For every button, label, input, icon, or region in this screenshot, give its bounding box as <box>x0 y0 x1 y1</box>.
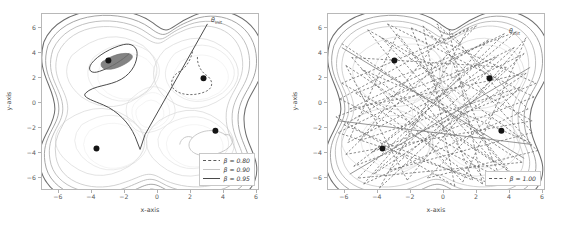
xtick-label: 2 <box>474 193 478 200</box>
plot-area-right: θinit β = 1.00 <box>327 13 545 190</box>
ytick-label: 6 <box>308 24 322 31</box>
ytick-label: −4 <box>22 149 36 156</box>
ytick-label: 4 <box>308 49 322 56</box>
ytick-mark <box>324 152 327 153</box>
contour-level-2 <box>75 44 235 170</box>
legend-swatch-solid-light <box>203 166 220 173</box>
plot-area-left: θinit β = 0.80 β = 0.90 <box>41 13 259 190</box>
y-axis-title: y-axis <box>291 92 299 111</box>
annealed-trajectories-panel: θinit β = 0.80 β = 0.90 <box>0 0 285 232</box>
legend-item: β = 0.80 <box>203 156 250 165</box>
ytick-label: 2 <box>22 74 36 81</box>
legend-swatch-solid-dark <box>203 175 220 182</box>
ytick-label: −2 <box>22 124 36 131</box>
trajectory-beta-080 <box>172 52 212 95</box>
ytick-mark <box>324 177 327 178</box>
mode-marker <box>498 128 504 134</box>
legend-label: β = 0.80 <box>224 157 250 164</box>
xtick-label: −6 <box>53 193 62 200</box>
ytick-label: −6 <box>308 174 322 181</box>
xtick-label: 4 <box>221 193 225 200</box>
ytick-mark <box>38 177 41 178</box>
mode-markers-left <box>94 58 219 152</box>
xtick-label: −4 <box>86 193 95 200</box>
xtick-label: 0 <box>155 193 159 200</box>
xtick-label: 6 <box>540 193 544 200</box>
theta-init-annotation-left: θinit <box>211 16 222 25</box>
xtick-label: −2 <box>119 193 128 200</box>
ytick-mark <box>38 127 41 128</box>
legend-label: β = 1.00 <box>510 175 536 182</box>
contour-level-1 <box>84 53 229 168</box>
ytick-mark <box>38 27 41 28</box>
x-axis-title: x-axis <box>141 206 160 214</box>
ytick-mark <box>324 77 327 78</box>
unannealed-trajectories-panel: θinit β = 1.00 −6 −4 −2 0 2 4 6 <box>286 0 571 232</box>
y-axis-title: y-axis <box>5 92 13 111</box>
legend-item: β = 0.90 <box>203 165 250 174</box>
mode-marker <box>487 75 493 81</box>
legend-swatch-dashed <box>489 175 506 182</box>
ytick-mark <box>324 27 327 28</box>
ytick-label: −6 <box>22 174 36 181</box>
xtick-label: −2 <box>405 193 414 200</box>
xtick-label: 4 <box>507 193 511 200</box>
ytick-label: 0 <box>22 99 36 106</box>
ytick-mark <box>38 77 41 78</box>
mode-marker <box>201 75 207 81</box>
legend-label: β = 0.95 <box>224 175 250 182</box>
ytick-label: 6 <box>22 24 36 31</box>
xtick-label: 2 <box>188 193 192 200</box>
legend-label: β = 0.90 <box>224 166 250 173</box>
ytick-mark <box>324 102 327 103</box>
legend-item: β = 0.95 <box>203 174 250 183</box>
trajectory-beta-090 <box>180 131 233 156</box>
ytick-label: 0 <box>308 99 322 106</box>
ytick-mark <box>38 102 41 103</box>
legend-left: β = 0.80 β = 0.90 β = 0.95 <box>199 153 255 186</box>
legend-item: β = 1.00 <box>489 174 536 183</box>
xtick-label: −6 <box>339 193 348 200</box>
ytick-mark <box>324 127 327 128</box>
xtick-label: 0 <box>441 193 445 200</box>
ytick-label: 4 <box>22 49 36 56</box>
ytick-mark <box>324 52 327 53</box>
legend-right: β = 1.00 <box>485 171 541 186</box>
x-axis-title: x-axis <box>427 206 446 214</box>
ytick-mark <box>38 152 41 153</box>
ytick-mark <box>38 52 41 53</box>
mode-marker <box>94 145 100 151</box>
xtick-label: −4 <box>372 193 381 200</box>
mode-marker <box>212 128 218 134</box>
ytick-label: 2 <box>308 74 322 81</box>
mode-marker <box>105 58 111 64</box>
legend-swatch-dashed <box>203 157 220 164</box>
figure-container: θinit β = 0.80 β = 0.90 <box>0 0 571 232</box>
ytick-label: −2 <box>308 124 322 131</box>
mode-marker <box>380 145 386 151</box>
mode-marker <box>391 58 397 64</box>
theta-init-annotation-right: θinit <box>509 27 520 36</box>
trajectory-beta-095 <box>85 24 208 150</box>
contour-and-trajectory-plot-right <box>328 14 544 189</box>
xtick-label: 6 <box>254 193 258 200</box>
ytick-label: −4 <box>308 149 322 156</box>
